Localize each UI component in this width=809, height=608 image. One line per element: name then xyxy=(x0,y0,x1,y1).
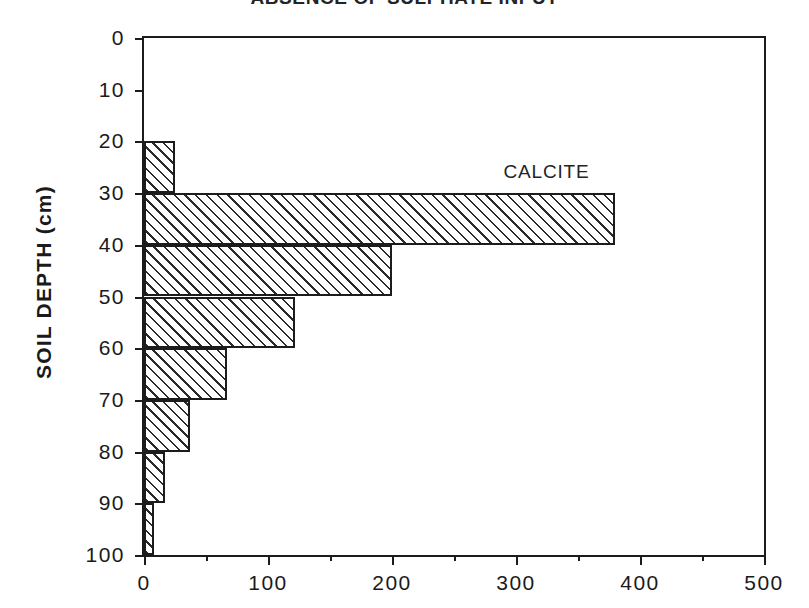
y-axis-tick: 80 xyxy=(135,452,144,454)
series-annotation-calcite: CALCITE xyxy=(504,161,590,183)
x-axis-tick xyxy=(144,555,146,565)
y-axis-tick: 20 xyxy=(135,141,144,143)
y-axis-tick-label: 10 xyxy=(99,78,125,102)
plot-area: 01020304050607080901000100200300400500 C… xyxy=(142,36,766,557)
y-axis-tick: 90 xyxy=(135,503,144,505)
bar xyxy=(144,503,154,555)
y-axis-tick-label: 40 xyxy=(99,233,125,257)
y-axis-tick-label: 30 xyxy=(99,181,125,205)
x-axis-tick-label: 0 xyxy=(137,571,150,595)
x-axis-minor-tick xyxy=(702,555,704,561)
y-axis-tick: 0 xyxy=(135,38,144,40)
x-axis-tick xyxy=(268,555,270,565)
x-axis-tick xyxy=(516,555,518,565)
y-axis-tick: 30 xyxy=(135,193,144,195)
y-axis-tick: 50 xyxy=(135,297,144,299)
bar xyxy=(144,348,227,400)
x-axis-minor-tick xyxy=(330,555,332,561)
y-axis-title: SOIL DEPTH (cm) xyxy=(32,152,56,412)
y-axis-tick: 100 xyxy=(135,555,144,557)
chart-title: ABSENCE OF SULPHATE INPUT xyxy=(0,0,809,9)
x-axis-tick-label: 300 xyxy=(496,571,536,595)
bar xyxy=(144,452,165,504)
y-axis-tick-label: 50 xyxy=(99,285,125,309)
x-axis-minor-tick xyxy=(578,555,580,561)
y-axis-tick-label: 20 xyxy=(99,129,125,153)
bar xyxy=(144,400,190,452)
x-axis-tick xyxy=(640,555,642,565)
bar xyxy=(144,141,175,193)
y-axis-tick-label: 70 xyxy=(99,388,125,412)
chart-figure: ABSENCE OF SULPHATE INPUT SOIL DEPTH (cm… xyxy=(0,0,809,608)
x-axis-tick xyxy=(764,555,766,565)
y-axis-tick-label: 60 xyxy=(99,336,125,360)
bar xyxy=(144,193,615,245)
bar xyxy=(144,245,392,297)
x-axis-tick-label: 200 xyxy=(372,571,412,595)
x-axis-tick-label: 500 xyxy=(744,571,784,595)
y-axis-tick-label: 80 xyxy=(99,440,125,464)
x-axis-minor-tick xyxy=(454,555,456,561)
y-axis-tick-label: 0 xyxy=(112,26,125,50)
y-axis-tick: 10 xyxy=(135,90,144,92)
y-axis-tick-label: 90 xyxy=(99,491,125,515)
y-axis-tick: 40 xyxy=(135,245,144,247)
x-axis-tick-label: 100 xyxy=(248,571,288,595)
x-axis-tick xyxy=(392,555,394,565)
bars-layer xyxy=(144,38,764,555)
y-axis-tick: 70 xyxy=(135,400,144,402)
y-axis-tick-label: 100 xyxy=(85,543,125,567)
x-axis-minor-tick xyxy=(206,555,208,561)
x-axis-tick-label: 400 xyxy=(620,571,660,595)
y-axis-tick: 60 xyxy=(135,348,144,350)
bar xyxy=(144,297,295,349)
